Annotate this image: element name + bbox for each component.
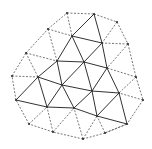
mesh-node bbox=[66, 12, 68, 14]
solid-edge bbox=[92, 91, 119, 93]
solid-edge bbox=[84, 43, 102, 62]
triangular-mesh-svg bbox=[0, 0, 152, 149]
mesh-node bbox=[82, 138, 84, 140]
dashed-edge bbox=[26, 53, 38, 77]
solid-edge bbox=[119, 93, 127, 124]
mesh-node bbox=[71, 35, 73, 37]
solid-edge bbox=[16, 100, 47, 107]
mesh-node bbox=[52, 131, 54, 133]
dashed-edge bbox=[117, 22, 128, 44]
dashed-edge bbox=[107, 44, 128, 68]
solid-edge bbox=[84, 62, 107, 68]
solid-edge bbox=[62, 85, 74, 108]
dashed-edge bbox=[94, 14, 117, 22]
dashed-edge bbox=[47, 107, 53, 132]
mesh-node bbox=[73, 107, 75, 109]
solid-edge bbox=[74, 108, 97, 116]
mesh-node bbox=[142, 99, 144, 101]
dashed-edge bbox=[48, 13, 67, 29]
mesh-node bbox=[28, 123, 30, 125]
solid-edge bbox=[72, 36, 102, 43]
dashed-edge bbox=[67, 13, 94, 14]
mesh-node bbox=[101, 42, 103, 44]
dashed-edge bbox=[136, 77, 143, 100]
mesh-node bbox=[25, 52, 27, 54]
mesh-node bbox=[15, 99, 17, 101]
mesh-node bbox=[118, 92, 120, 94]
dashed-edge bbox=[29, 107, 47, 124]
dashed-edge bbox=[83, 116, 97, 139]
solid-edge bbox=[57, 61, 84, 62]
dashed-edge bbox=[53, 132, 83, 139]
dashed-edge bbox=[128, 44, 136, 77]
mesh-node bbox=[127, 43, 129, 45]
dashed-edge bbox=[26, 29, 48, 53]
solid-edge bbox=[74, 91, 92, 108]
dashed-edge bbox=[74, 108, 83, 139]
solid-edge bbox=[38, 77, 62, 85]
mesh-node bbox=[56, 60, 58, 62]
solid-edge bbox=[97, 93, 119, 116]
solid-edge bbox=[62, 62, 84, 85]
solid-edge bbox=[38, 61, 57, 77]
solid-edge bbox=[72, 14, 94, 36]
mesh-node bbox=[83, 61, 85, 63]
dashed-edge bbox=[107, 68, 136, 77]
solid-edge bbox=[102, 43, 107, 68]
dashed-edge bbox=[12, 76, 38, 77]
mesh-node bbox=[116, 21, 118, 23]
mesh-node bbox=[93, 13, 95, 15]
solid-edge bbox=[38, 77, 47, 107]
solid-edge bbox=[57, 61, 62, 85]
dashed-edge bbox=[12, 76, 16, 100]
mesh-node bbox=[37, 76, 39, 78]
solid-edge bbox=[62, 85, 92, 91]
dashed-edge bbox=[102, 22, 117, 43]
dashed-edge bbox=[97, 116, 105, 133]
solid-edge bbox=[92, 68, 107, 91]
mesh-node bbox=[61, 84, 63, 86]
dashed-edge bbox=[26, 53, 57, 61]
dashed-edge bbox=[12, 53, 26, 76]
solid-edge bbox=[47, 85, 62, 107]
dashed-edge bbox=[48, 29, 57, 61]
mesh-node bbox=[135, 76, 137, 78]
solid-edge bbox=[72, 36, 84, 62]
mesh-diagram bbox=[0, 0, 152, 149]
mesh-node bbox=[11, 75, 13, 77]
solid-edge bbox=[16, 77, 38, 100]
mesh-node bbox=[47, 28, 49, 30]
solid-edge bbox=[47, 107, 74, 108]
mesh-node bbox=[106, 67, 108, 69]
dashed-edge bbox=[119, 93, 143, 100]
dashed-edge bbox=[48, 29, 72, 36]
mesh-node bbox=[91, 90, 93, 92]
mesh-node bbox=[46, 106, 48, 108]
solid-edge bbox=[57, 36, 72, 61]
solid-edge bbox=[94, 14, 102, 43]
dashed-edge bbox=[16, 100, 29, 124]
solid-edge bbox=[92, 91, 97, 116]
solid-edge bbox=[84, 62, 92, 91]
dashed-edge bbox=[127, 100, 143, 124]
mesh-node bbox=[96, 115, 98, 117]
mesh-node bbox=[104, 132, 106, 134]
solid-edge bbox=[97, 116, 127, 124]
dashed-edge bbox=[29, 124, 53, 132]
mesh-node bbox=[126, 123, 128, 125]
dashed-edge bbox=[53, 108, 74, 132]
dashed-edge bbox=[119, 77, 136, 93]
dashed-edge bbox=[67, 13, 72, 36]
dashed-edge bbox=[102, 43, 128, 44]
dashed-edge bbox=[83, 133, 105, 139]
solid-edge bbox=[107, 68, 119, 93]
